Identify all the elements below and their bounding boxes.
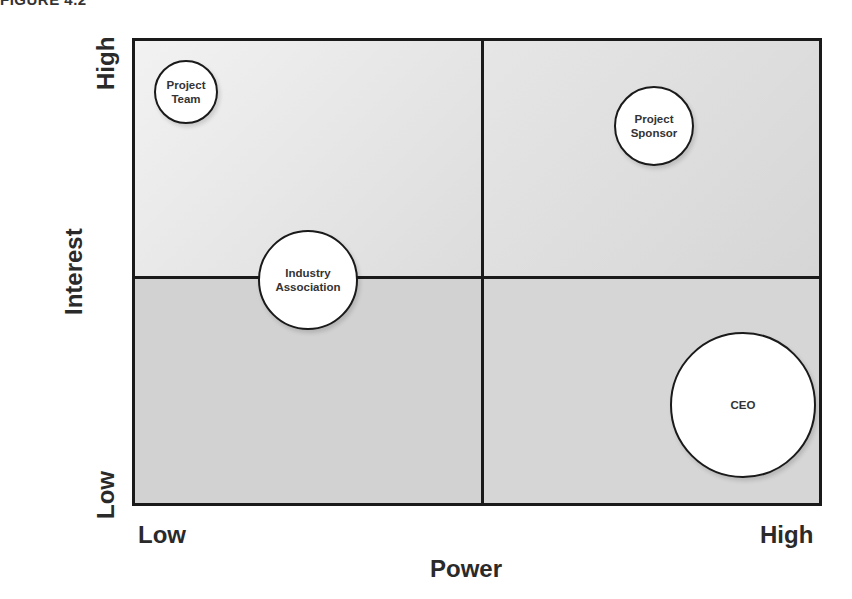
stakeholder-label-line2: Team	[167, 92, 206, 106]
stakeholder-label-line1: Project	[167, 78, 206, 92]
stakeholder-label-line1: Industry	[275, 266, 340, 280]
stakeholder-project-team: Project Team	[154, 60, 218, 124]
horizontal-divider	[135, 276, 819, 279]
x-axis-low-label: Low	[138, 521, 186, 549]
stakeholder-label-line1: Project	[631, 112, 678, 126]
stakeholder-label-line2: Association	[275, 280, 340, 294]
stakeholder-ceo: CEO	[670, 332, 816, 478]
stakeholder-industry-association: Industry Association	[258, 230, 358, 330]
figure-label: FIGURE 4.2	[0, 0, 87, 8]
x-axis-high-label: High	[760, 521, 813, 549]
x-axis-title: Power	[430, 555, 502, 583]
y-axis-low-label: Low	[92, 470, 122, 520]
stakeholder-label-line2: Sponsor	[631, 126, 678, 140]
y-axis-title: Interest	[60, 235, 90, 315]
vertical-divider	[481, 41, 484, 503]
stakeholder-label-line1: CEO	[731, 398, 756, 412]
stakeholder-project-sponsor: Project Sponsor	[614, 86, 694, 166]
y-axis-high-label: High	[92, 40, 122, 90]
